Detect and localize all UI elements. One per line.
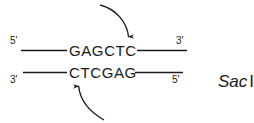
bottom-cut-arrow	[79, 86, 104, 120]
top-strand-right-end-label: 3'	[176, 35, 183, 46]
enzyme-numeral: I	[249, 72, 254, 91]
top-cut-arrow	[100, 5, 129, 37]
top-strand-left-end-label: 5'	[10, 35, 17, 46]
bottom-strand-sequence: CTCGAG	[69, 64, 137, 81]
bottom-strand-left-end-label: 3'	[10, 74, 17, 85]
restriction-site-figure: GAGCTC CTCGAG 5' 3' 3' 5' SacI	[0, 0, 254, 123]
bottom-strand-right-end-label: 5'	[172, 74, 179, 85]
enzyme-label: SacI	[199, 52, 254, 112]
enzyme-name: Sac	[218, 72, 247, 91]
top-strand-sequence: GAGCTC	[69, 42, 137, 59]
